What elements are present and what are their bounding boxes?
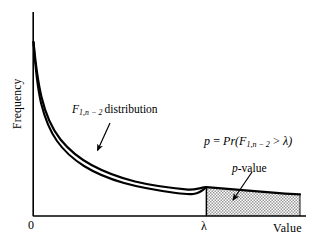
formula-close-paren: ) bbox=[288, 134, 292, 148]
distribution-annotation: F1,n − 2distribution bbox=[72, 104, 158, 117]
density-curve bbox=[34, 42, 207, 194]
formula-relation: > bbox=[270, 134, 283, 148]
f-distribution-pvalue-figure: Frequency Value 0 λ F1,n − 2distribution… bbox=[0, 0, 329, 241]
pvalue-suffix: -value bbox=[238, 162, 267, 174]
chart-canvas bbox=[0, 0, 329, 241]
formula-pr: Pr bbox=[223, 134, 235, 148]
x-tick-lambda: λ bbox=[201, 220, 207, 232]
formula-subscript: 1,n − 2 bbox=[246, 140, 269, 149]
x-axis-label: Value bbox=[273, 222, 302, 234]
distribution-subscript: 1,n − 2 bbox=[79, 108, 103, 117]
pvalue-formula-annotation: p=Pr(F1,n − 2>λ) bbox=[204, 135, 292, 149]
formula-equals: = bbox=[210, 134, 223, 148]
x-tick-origin: 0 bbox=[28, 219, 34, 231]
distribution-variable: F bbox=[72, 103, 79, 115]
y-axis-label: Frequency bbox=[12, 64, 24, 144]
distribution-label-arrow bbox=[98, 123, 111, 151]
pvalue-annotation: p-value bbox=[232, 163, 266, 175]
distribution-suffix: distribution bbox=[103, 103, 158, 115]
